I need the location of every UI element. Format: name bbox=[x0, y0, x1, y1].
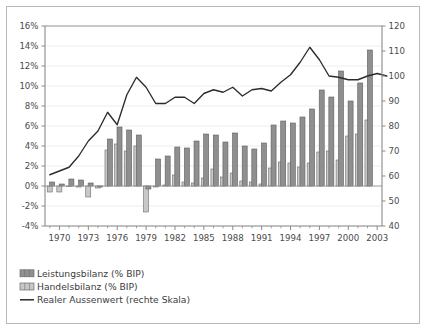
y-axis-left-tick-label: 10% bbox=[19, 81, 38, 91]
y-axis-right-tick-label: 100 bbox=[389, 71, 405, 81]
x-axis-tick-label: 2003 bbox=[366, 233, 388, 243]
legend-item-label: Leistungsbilanz (% BIP) bbox=[37, 268, 144, 279]
y-axis-right-tick-label: 120 bbox=[389, 21, 405, 31]
y-axis-right-ticks: 405060708090100110120 bbox=[382, 21, 405, 231]
y-axis-left-ticks: -4%-2%0%2%4%6%8%10%12%14%16% bbox=[19, 21, 45, 231]
legend-item-label: Handelsbilanz (% BIP) bbox=[37, 281, 138, 292]
x-axis-tick-label: 1970 bbox=[49, 233, 71, 243]
y-axis-left-tick-label: -2% bbox=[22, 201, 39, 211]
y-axis-right-tick-label: 50 bbox=[389, 196, 400, 206]
y-axis-right-tick-label: 90 bbox=[389, 96, 400, 106]
x-axis-tick-label: 1979 bbox=[135, 233, 157, 243]
x-axis-tick-label: 1997 bbox=[308, 233, 330, 243]
y-axis-right-tick-label: 80 bbox=[389, 121, 400, 131]
y-axis-right-tick-label: 110 bbox=[389, 46, 405, 56]
y-axis-right-tick-label: 40 bbox=[389, 221, 400, 231]
x-axis-ticks: 1970197319761979198219851988199119941997… bbox=[49, 226, 389, 243]
y-axis-left-tick-label: 2% bbox=[25, 161, 39, 171]
chart-canvas: -4%-2%0%2%4%6%8%10%12%14%16% 40506070809… bbox=[0, 0, 428, 332]
x-axis-tick-label: 1973 bbox=[77, 233, 99, 243]
y-axis-left-tick-label: 6% bbox=[25, 121, 39, 131]
y-axis-left-tick-label: 16% bbox=[19, 21, 38, 31]
y-axis-right-tick-label: 70 bbox=[389, 146, 400, 156]
y-axis-left-tick-label: 4% bbox=[25, 141, 39, 151]
y-axis-right-tick-label: 60 bbox=[389, 171, 400, 181]
x-axis-tick-label: 1991 bbox=[251, 233, 273, 243]
x-axis-tick-label: 1988 bbox=[222, 233, 244, 243]
x-axis-tick-label: 1994 bbox=[280, 233, 302, 243]
y-axis-left-tick-label: 8% bbox=[25, 101, 39, 111]
x-axis-tick-label: 1985 bbox=[193, 233, 215, 243]
y-axis-left-tick-label: 0% bbox=[25, 181, 39, 191]
y-axis-left-tick-label: 14% bbox=[19, 41, 38, 51]
x-axis-tick-label: 1976 bbox=[106, 233, 128, 243]
y-axis-left-tick-label: 12% bbox=[19, 61, 38, 71]
chart-legend: Leistungsbilanz (% BIP)Handelsbilanz (% … bbox=[20, 268, 190, 305]
x-axis-tick-label: 2000 bbox=[337, 233, 359, 243]
legend-item-label: Realer Aussenwert (rechte Skala) bbox=[37, 294, 190, 305]
chart-figure: -4%-2%0%2%4%6%8%10%12%14%16% 40506070809… bbox=[0, 0, 428, 332]
y-axis-left-tick-label: -4% bbox=[22, 221, 39, 231]
x-axis-tick-label: 1982 bbox=[164, 233, 186, 243]
